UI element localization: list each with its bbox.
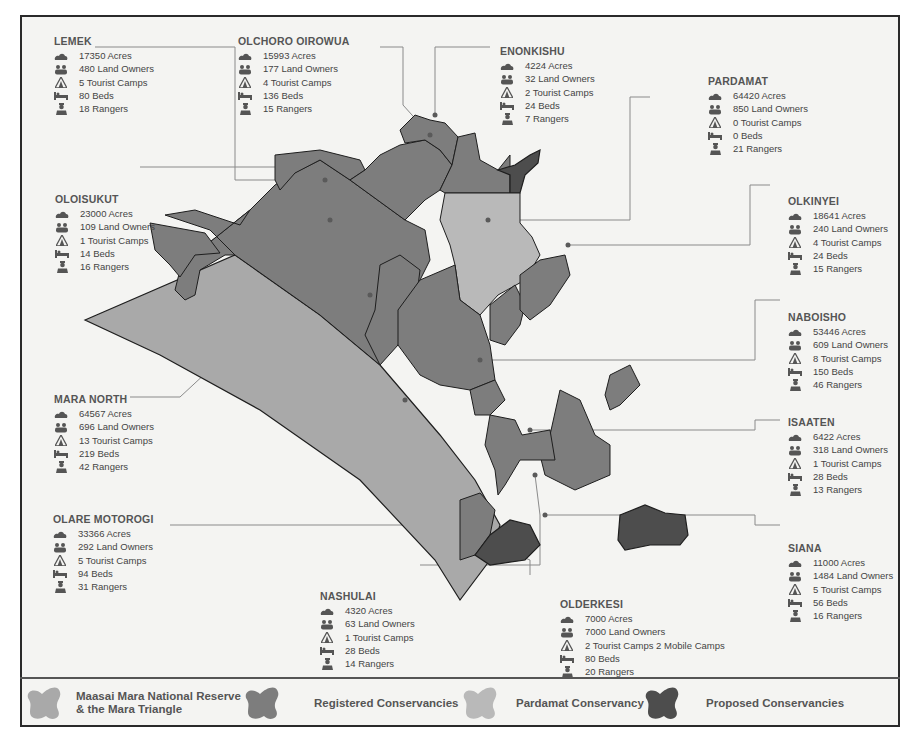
acres-cloud-icon xyxy=(788,326,802,337)
map-region-isaaten xyxy=(605,365,640,410)
beds-value: 28 Beds xyxy=(345,644,380,657)
owners-value: 850 Land Owners xyxy=(733,102,808,115)
acres-cloud-icon xyxy=(320,605,334,616)
land-owners-people-icon xyxy=(238,64,252,75)
beds-bed-icon xyxy=(54,448,68,459)
map-region-south-cluster xyxy=(485,415,555,495)
beds-bed-icon xyxy=(708,130,722,141)
owners-value: 609 Land Owners xyxy=(813,338,888,351)
beds-value: 136 Beds xyxy=(263,89,303,102)
acres-value: 18641 Acres xyxy=(813,209,866,222)
beds-value: 24 Beds xyxy=(525,99,560,112)
tourist-camps-tent-icon xyxy=(560,640,574,651)
beds-value: 150 Beds xyxy=(813,365,853,378)
acres-value: 6422 Acres xyxy=(813,430,861,443)
tourist-camps-tent-icon xyxy=(55,235,69,246)
card-pardamat: PARDAMAT 64420 Acres 850 Land Owners 0 T… xyxy=(708,75,808,155)
rangers-person-icon xyxy=(55,261,69,272)
beds-bed-icon xyxy=(238,90,252,101)
acres-value: 4320 Acres xyxy=(345,604,393,617)
beds-bed-icon xyxy=(788,471,802,482)
owners-value: 109 Land Owners xyxy=(80,220,155,233)
card-title: OLDERKESI xyxy=(560,598,725,611)
acres-cloud-icon xyxy=(53,528,67,539)
camps-value: 0 Tourist Camps xyxy=(733,116,801,129)
beds-bed-icon xyxy=(560,653,574,664)
card-lemek: LEMEK 17350 Acres 480 Land Owners 5 Tour… xyxy=(54,35,154,115)
rangers-value: 16 Rangers xyxy=(80,260,129,273)
rangers-person-icon xyxy=(788,379,802,390)
rangers-value: 16 Rangers xyxy=(813,609,862,622)
owners-value: 32 Land Owners xyxy=(525,72,595,85)
card-title: NASHULAI xyxy=(320,590,415,603)
beds-value: 14 Beds xyxy=(80,247,115,260)
beds-value: 80 Beds xyxy=(585,652,620,665)
card-title: OLKINYEI xyxy=(788,195,888,208)
rangers-person-icon xyxy=(54,461,68,472)
beds-value: 219 Beds xyxy=(79,447,119,460)
camps-value: 1 Tourist Camps xyxy=(345,631,413,644)
card-title: PARDAMAT xyxy=(708,75,808,88)
land-owners-people-icon xyxy=(320,619,334,630)
land-owners-people-icon xyxy=(708,104,722,115)
acres-value: 17350 Acres xyxy=(79,49,132,62)
land-owners-people-icon xyxy=(54,422,68,433)
beds-bed-icon xyxy=(500,100,514,111)
tourist-camps-tent-icon xyxy=(238,77,252,88)
land-owners-people-icon xyxy=(53,542,67,553)
acres-cloud-icon xyxy=(788,210,802,221)
card-title: ENONKISHU xyxy=(500,45,595,58)
camps-value: 4 Tourist Camps xyxy=(813,236,881,249)
owners-value: 7000 Land Owners xyxy=(585,625,665,638)
rangers-value: 13 Rangers xyxy=(813,483,862,496)
camps-value: 2 Tourist Camps xyxy=(525,86,593,99)
card-isaaten: ISAATEN 6422 Acres 318 Land Owners 1 Tou… xyxy=(788,416,888,496)
rangers-person-icon xyxy=(788,263,802,274)
owners-value: 292 Land Owners xyxy=(78,540,153,553)
camps-value: 5 Tourist Camps xyxy=(79,76,147,89)
tourist-camps-tent-icon xyxy=(54,435,68,446)
pardamat-swatch-icon xyxy=(460,684,502,722)
camps-value: 5 Tourist Camps xyxy=(813,583,881,596)
acres-value: 23000 Acres xyxy=(80,207,133,220)
beds-value: 80 Beds xyxy=(79,89,114,102)
card-title: NABOISHO xyxy=(788,311,888,324)
tourist-camps-tent-icon xyxy=(788,237,802,248)
tourist-camps-tent-icon xyxy=(500,87,514,98)
acres-cloud-icon xyxy=(55,208,69,219)
card-title: OLCHORO OIROWUA xyxy=(238,35,350,48)
card-title: OLOISUKUT xyxy=(55,193,155,206)
beds-bed-icon xyxy=(54,90,68,101)
camps-value: 1 Tourist Camps xyxy=(813,457,881,470)
owners-value: 177 Land Owners xyxy=(263,62,338,75)
card-mara-north: MARA NORTH 64567 Acres 696 Land Owners 1… xyxy=(54,393,154,473)
beds-bed-icon xyxy=(53,568,67,579)
card-nashulai: NASHULAI 4320 Acres 63 Land Owners 1 Tou… xyxy=(320,590,415,670)
camps-value: 2 Tourist Camps 2 Mobile Camps xyxy=(585,639,725,652)
rangers-value: 46 Rangers xyxy=(813,378,862,391)
beds-value: 94 Beds xyxy=(78,567,113,580)
owners-value: 1484 Land Owners xyxy=(813,569,893,582)
card-title: LEMEK xyxy=(54,35,154,48)
land-owners-people-icon xyxy=(788,571,802,582)
acres-value: 7000 Acres xyxy=(585,612,633,625)
acres-value: 53446 Acres xyxy=(813,325,866,338)
card-olderkesi: OLDERKESI 7000 Acres 7000 Land Owners 2 … xyxy=(560,598,725,678)
acres-cloud-icon xyxy=(238,50,252,61)
beds-value: 28 Beds xyxy=(813,470,848,483)
camps-value: 8 Tourist Camps xyxy=(813,352,881,365)
acres-cloud-icon xyxy=(54,408,68,419)
acres-cloud-icon xyxy=(500,60,514,71)
card-title: MARA NORTH xyxy=(54,393,154,406)
card-olare-motorogi: OLARE MOTOROGI 33366 Acres 292 Land Owne… xyxy=(53,513,154,593)
acres-value: 64420 Acres xyxy=(733,89,786,102)
acres-value: 4224 Acres xyxy=(525,59,573,72)
beds-value: 24 Beds xyxy=(813,249,848,262)
rangers-person-icon xyxy=(708,143,722,154)
rangers-value: 18 Rangers xyxy=(79,102,128,115)
acres-value: 11000 Acres xyxy=(813,556,865,569)
card-olkinyei: OLKINYEI 18641 Acres 240 Land Owners 4 T… xyxy=(788,195,888,275)
camps-value: 4 Tourist Camps xyxy=(263,76,331,89)
land-owners-people-icon xyxy=(788,224,802,235)
card-naboisho: NABOISHO 53446 Acres 609 Land Owners 8 T… xyxy=(788,311,888,391)
